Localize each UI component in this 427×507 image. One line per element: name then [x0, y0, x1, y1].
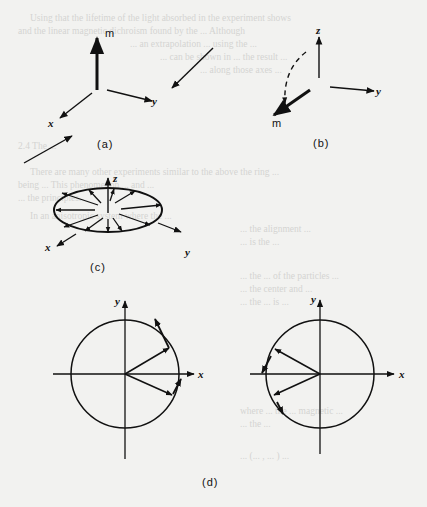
panel-a: [24, 38, 213, 163]
label-x: x: [398, 368, 405, 380]
velocity-vector-arrow: [173, 379, 181, 394]
radius-vector-arrow: [125, 374, 172, 395]
label-y: y: [113, 295, 120, 307]
caption-d: (d): [202, 476, 218, 488]
y-axis-arrow: [330, 87, 374, 91]
incident-field-arrow: [172, 48, 213, 88]
m-vector-arrow: [274, 90, 310, 115]
label-y: y: [183, 246, 190, 258]
x-axis-arrow: [60, 93, 92, 118]
caption-b: (b): [313, 137, 329, 149]
label-x: x: [47, 117, 54, 129]
radius-vector-arrow: [275, 349, 320, 374]
radius-vector-arrow: [125, 348, 169, 374]
panel-d-left: [53, 301, 194, 459]
incident-field-arrow: [24, 136, 72, 163]
label-z: z: [315, 24, 321, 36]
velocity-vector-arrow: [155, 319, 169, 348]
caption-c: (c): [90, 261, 106, 273]
radius-vector-arrow: [274, 374, 320, 395]
panel-b: [274, 37, 374, 115]
panel-c: [54, 178, 181, 246]
label-x: x: [44, 241, 51, 253]
panel-d-right: [250, 300, 394, 454]
document-page: Using that the lifetime of the light abs…: [0, 0, 427, 507]
label-y: y: [150, 95, 157, 107]
label-y: y: [309, 293, 316, 305]
label-y: y: [374, 85, 381, 97]
x-axis-arrow: [57, 234, 76, 246]
y-axis-arrow: [158, 223, 181, 232]
label-z: z: [112, 172, 118, 184]
label-m: m: [272, 117, 281, 129]
y-axis-arrow: [107, 90, 152, 101]
label-m: m: [105, 27, 114, 39]
label-x: x: [197, 368, 204, 380]
figure: m y x (a) z y m (b): [0, 0, 427, 507]
caption-a: (a): [97, 138, 113, 150]
